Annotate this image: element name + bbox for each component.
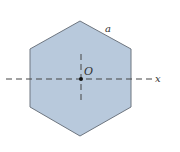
axis-label: x: [155, 73, 161, 84]
hexagon-diagram: O a x: [0, 0, 180, 152]
center-point: [79, 77, 83, 81]
side-label: a: [105, 23, 111, 34]
center-label: O: [84, 65, 93, 78]
